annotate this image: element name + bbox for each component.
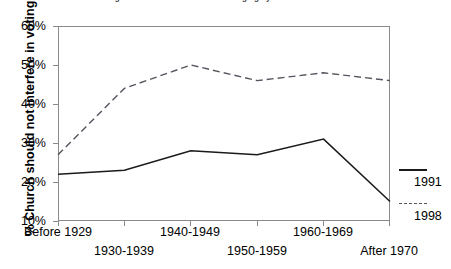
x-tick-label-after-1970: After 1970 [360,245,418,258]
legend-entry-1991: 1991 [399,163,451,197]
x-tick-label-1950-1959: 1950-1959 [227,245,287,258]
legend-swatch-dashed-icon [399,203,427,204]
chart-title: Religious Attitudes and Politics Changin… [70,0,350,3]
legend-entry-1998: 1998 [399,197,451,231]
x-tick-label-before-1929: Before 1929 [24,226,92,239]
legend-label-1991: 1991 [414,176,442,189]
y-tick-label-60: 60% [0,20,46,32]
x-tick-label-1960-1969: 1960-1969 [293,226,353,239]
legend: 1991 1998 [399,163,451,231]
series-line-1998 [58,65,390,155]
legend-label-1998: 1998 [414,210,442,223]
y-tick-label-30: 30% [0,137,46,149]
x-tick-label-1940-1949: 1940-1949 [160,226,220,239]
y-axis-title: % Church should not interfere in voting [23,0,37,243]
y-tick-label-50: 50% [0,59,46,71]
x-tick-mark-1 [124,221,125,226]
y-tick-label-40: 40% [0,98,46,110]
series-canvas [58,26,390,221]
x-tick-mark-5 [389,221,390,226]
legend-swatch-solid-icon [399,169,427,171]
series-line-1991 [58,139,390,201]
x-tick-mark-3 [257,221,258,226]
y-tick-label-20: 20% [0,176,46,188]
x-tick-label-1930-1939: 1930-1939 [94,245,154,258]
